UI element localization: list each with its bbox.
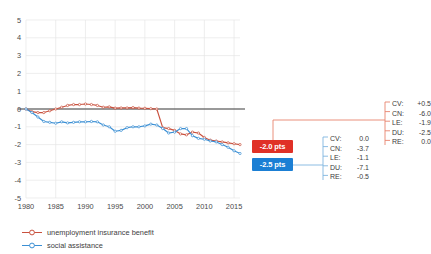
series-point — [72, 121, 74, 123]
annotation-row: CN:-3.7 — [330, 144, 369, 154]
series-point — [108, 106, 110, 108]
series-point — [156, 108, 158, 110]
x-axis-tick-label: 2000 — [137, 202, 153, 211]
series-point — [239, 143, 241, 145]
series-point — [66, 122, 68, 124]
series-point — [55, 108, 57, 110]
chart-legend: unemployment insurance benefit social as… — [22, 226, 154, 252]
series-point — [66, 104, 68, 106]
series-point — [227, 142, 229, 144]
annotation-value: -1.9 — [409, 118, 431, 128]
annotation-row: CN:-6.0 — [392, 109, 431, 119]
annotation-row: LE:-1.1 — [330, 153, 369, 163]
series-point — [233, 143, 235, 145]
y-axis-tick-label: -1 — [14, 122, 21, 131]
series-point — [90, 103, 92, 105]
annotation-row: DU:-2.5 — [392, 128, 431, 138]
series-point — [78, 121, 80, 123]
x-axis-tick-label: 1995 — [107, 202, 123, 211]
series-point — [37, 116, 39, 118]
annotation-row: DU:-7.1 — [330, 163, 369, 173]
series-point — [90, 120, 92, 122]
legend-label: unemployment insurance benefit — [47, 229, 154, 236]
y-axis-tick-label: -2 — [14, 140, 21, 149]
series-point — [185, 127, 187, 129]
x-axis-tick-label: 1990 — [77, 202, 93, 211]
annotation-row: RE:0.0 — [392, 137, 431, 147]
series-line — [26, 104, 240, 145]
legend-marker-icon — [22, 228, 42, 237]
series-point — [215, 141, 217, 143]
series-point — [233, 150, 235, 152]
annotation-row: RE:-0.5 — [330, 172, 369, 182]
series-point — [126, 107, 128, 109]
series-point — [84, 103, 86, 105]
badge-social-assistance-delta[interactable]: -2.5 pts — [252, 158, 293, 171]
annotation-value: +0.5 — [409, 99, 431, 109]
series-point — [72, 103, 74, 105]
annotation-value: -1.1 — [347, 153, 369, 163]
series-point — [197, 132, 199, 134]
annotation-value: -3.7 — [347, 144, 369, 154]
annotation-row: CV:0.0 — [330, 134, 369, 144]
connector-lines — [245, 0, 407, 254]
annotation-list-unemployment-insurance: CV:+0.5CN:-6.0LE:-1.9DU:-2.5RE:0.0 — [392, 99, 431, 147]
series-point — [144, 125, 146, 127]
annotation-key: LE: — [330, 153, 347, 163]
x-axis-tick-label: 2010 — [196, 202, 212, 211]
series-line — [26, 109, 240, 154]
series-point — [96, 104, 98, 106]
annotation-value: -7.1 — [347, 163, 369, 173]
series-point — [132, 126, 134, 128]
y-axis-tick-label: 5 — [17, 16, 21, 25]
series-point — [150, 107, 152, 109]
series-point — [203, 138, 205, 140]
x-axis-tick-label: 2005 — [166, 202, 182, 211]
x-axis-tick-label: 1985 — [47, 202, 63, 211]
y-axis-tick-label: 3 — [17, 51, 21, 60]
series-point — [114, 130, 116, 132]
series-point — [55, 122, 57, 124]
series-point — [138, 107, 140, 109]
legend-item[interactable]: unemployment insurance benefit — [22, 226, 154, 239]
series-point — [25, 108, 27, 110]
series-point — [191, 135, 193, 137]
annotation-value: -6.0 — [409, 109, 431, 119]
series-point — [126, 127, 128, 129]
series-point — [132, 106, 134, 108]
y-axis-tick-label: 4 — [17, 33, 21, 42]
series-point — [43, 120, 45, 122]
annotation-value: 0.0 — [347, 134, 369, 144]
series-point — [185, 134, 187, 136]
series-point — [120, 129, 122, 131]
series-point — [150, 123, 152, 125]
series-point — [221, 141, 223, 143]
x-axis-tick-label: 2015 — [226, 202, 242, 211]
series-point — [168, 132, 170, 134]
annotation-key: DU: — [392, 128, 409, 138]
series-point — [102, 124, 104, 126]
legend-marker-icon — [22, 241, 42, 250]
annotation-key: CN: — [392, 109, 409, 119]
annotation-key: LE: — [392, 118, 409, 128]
series-point — [179, 133, 181, 135]
series-point — [138, 126, 140, 128]
legend-item[interactable]: social assistance — [22, 239, 154, 252]
series-point — [102, 106, 104, 108]
series-point — [84, 121, 86, 123]
legend-label: social assistance — [47, 242, 103, 249]
annotation-key: CV: — [330, 134, 347, 144]
series-point — [37, 111, 39, 113]
series-point — [156, 124, 158, 126]
badge-unemployment-insurance-delta[interactable]: -2.0 pts — [252, 140, 293, 153]
chart-plot-area: 543210-1-2-3-4-5198019851990199520002005… — [0, 0, 245, 254]
y-axis-tick-label: -4 — [14, 176, 21, 185]
y-axis-tick-label: 2 — [17, 69, 21, 78]
series-point — [49, 121, 51, 123]
series-point — [173, 131, 175, 133]
series-point — [197, 137, 199, 139]
annotation-key: CN: — [330, 144, 347, 154]
annotations-panel: -2.0 pts -2.5 pts CV:0.0CN:-3.7LE:-1.1DU… — [245, 0, 407, 254]
series-point — [144, 107, 146, 109]
